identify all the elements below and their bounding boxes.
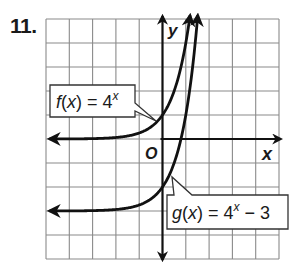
- graph: y x O f(x) = 4x g(x) = 4x − 3: [0, 0, 298, 269]
- y-axis-label: y: [167, 21, 179, 40]
- g-label: g(x) = 4x − 3: [172, 200, 270, 223]
- g-label-callout: g(x) = 4x − 3: [167, 177, 288, 229]
- f-label-callout: f(x) = 4x: [50, 85, 156, 121]
- origin-label: O: [145, 145, 158, 162]
- f-label: f(x) = 4x: [56, 89, 120, 112]
- x-axis-label: x: [261, 144, 273, 164]
